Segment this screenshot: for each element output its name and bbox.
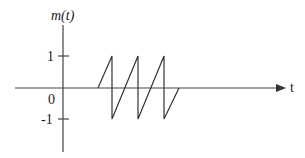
y-tick-label-minus-1: -1 [41, 112, 53, 127]
x-axis-arrowhead [276, 84, 286, 92]
y-tick-label-1: 1 [47, 49, 54, 64]
x-axis-label: t [290, 80, 294, 95]
sawtooth-diagram: m(t) t 1 0 -1 [0, 0, 305, 158]
y-tick-label-0: 0 [48, 92, 55, 107]
y-axis-label: m(t) [51, 8, 75, 24]
